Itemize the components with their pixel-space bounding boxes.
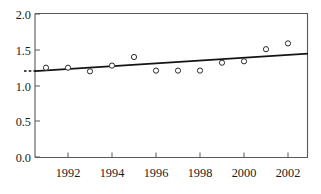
data-point-2000	[241, 59, 246, 64]
x-axis-ticks	[68, 153, 288, 158]
y-tick-label-0.5: 0.5	[16, 115, 31, 129]
data-point-1997	[175, 68, 180, 73]
y-tick-label-1.0: 1.0	[16, 80, 31, 94]
trend-line	[35, 54, 308, 71]
y-tick-label-1.5: 1.5	[16, 44, 31, 58]
data-point-1995	[131, 54, 136, 59]
data-point-2002	[285, 41, 290, 46]
data-point-1992	[65, 65, 70, 70]
x-tick-label-1994: 1994	[100, 166, 125, 180]
data-point-2001	[263, 47, 268, 52]
x-tick-label-2000: 2000	[232, 166, 257, 180]
x-tick-label-1992: 1992	[56, 166, 81, 180]
chart-screenshot: 2.0 1.5 1.0 0.5 0.0 1992 1994 1996 1998 …	[0, 0, 321, 194]
scatter-chart: 2.0 1.5 1.0 0.5 0.0 1992 1994 1996 1998 …	[0, 0, 321, 194]
y-tick-label-0.0: 0.0	[16, 151, 31, 165]
data-point-1996	[153, 68, 158, 73]
x-tick-label-2002: 2002	[276, 166, 301, 180]
data-point-1993	[87, 69, 92, 74]
y-tick-label-2.0: 2.0	[16, 8, 31, 22]
plot-frame	[35, 14, 308, 158]
y-axis-ticks	[35, 14, 40, 157]
data-point-1991	[43, 65, 48, 70]
data-point-1998	[197, 68, 202, 73]
data-point-1994	[109, 63, 114, 68]
y-axis-labels: 2.0 1.5 1.0 0.5 0.0	[16, 8, 31, 165]
x-tick-label-1998: 1998	[188, 166, 213, 180]
x-tick-label-1996: 1996	[144, 166, 169, 180]
x-axis-labels: 1992 1994 1996 1998 2000 2002	[56, 166, 301, 180]
data-point-1999	[219, 60, 224, 65]
